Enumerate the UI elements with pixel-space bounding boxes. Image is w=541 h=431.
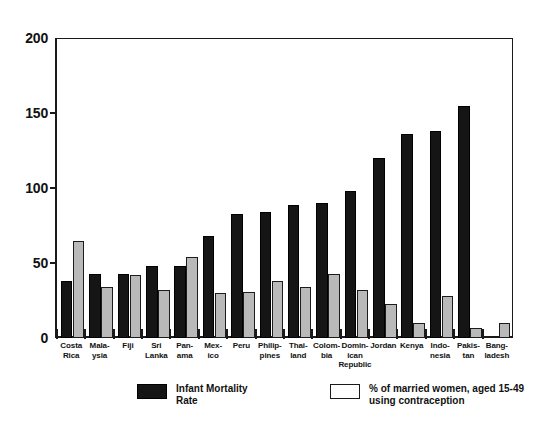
bar-chart: 050100150200 CostaRicaMala-ysiaFijiSriLa… [0, 0, 541, 431]
x-tick-mark [283, 329, 285, 339]
x-tick-mark [311, 329, 313, 339]
legend-swatch-contra [330, 384, 360, 399]
bar-group [256, 38, 284, 338]
bar-infant-mortality-rate [430, 131, 442, 338]
bars-layer [57, 38, 511, 338]
x-tick-mark [482, 329, 484, 339]
bar-group [227, 38, 255, 338]
bar-contraception-percent [73, 241, 85, 339]
bar-group [142, 38, 170, 338]
y-tick-label: 0 [0, 331, 48, 345]
bar-group [341, 38, 369, 338]
bar-contraception-percent [357, 290, 369, 338]
legend-label-line: % of married women, aged 15-49 [369, 383, 524, 395]
x-tick-mark [226, 329, 228, 339]
x-tick-mark [198, 329, 200, 339]
bar-group [312, 38, 340, 338]
bar-contraception-percent [442, 296, 454, 338]
legend-label: Infant MortalityRate [176, 383, 248, 407]
bar-group [114, 38, 142, 338]
bar-infant-mortality-rate [89, 274, 101, 339]
bar-infant-mortality-rate [118, 274, 130, 339]
bar-contraception-percent [158, 290, 170, 338]
bar-contraception-percent [101, 287, 113, 338]
y-tick-label: 150 [0, 106, 48, 120]
bar-group [454, 38, 482, 338]
x-tick-mark [396, 329, 398, 339]
bar-group [85, 38, 113, 338]
legend-label: % of married women, aged 15-49using cont… [369, 383, 524, 407]
bar-contraception-percent [215, 293, 227, 338]
bar-contraception-percent [272, 281, 284, 338]
legend-label-line: using contraception [369, 395, 524, 407]
bar-contraception-percent [470, 328, 482, 339]
bar-infant-mortality-rate [401, 134, 413, 338]
x-axis-label-line: ysia [82, 351, 116, 361]
bar-infant-mortality-rate [61, 281, 73, 338]
bar-group [171, 38, 199, 338]
bar-infant-mortality-rate [373, 158, 385, 338]
x-tick-mark [368, 329, 370, 339]
x-tick-mark [425, 329, 427, 339]
bar-contraception-percent [413, 323, 425, 338]
bar-contraception-percent [243, 292, 255, 339]
x-tick-mark [255, 329, 257, 339]
legend-swatch-imr [137, 384, 167, 399]
bar-infant-mortality-rate [146, 266, 158, 338]
x-axis-label-line: Bang- [480, 341, 514, 351]
bar-infant-mortality-rate [458, 106, 470, 339]
bar-infant-mortality-rate [174, 266, 186, 338]
bar-contraception-percent [130, 275, 142, 338]
x-tick-mark [169, 329, 171, 339]
bar-group [199, 38, 227, 338]
x-axis-label: Bang-ladesh [480, 341, 514, 360]
y-tick-label: 200 [0, 31, 48, 45]
y-tick-label: 50 [0, 256, 48, 270]
y-axis: 050100150200 [0, 0, 48, 431]
x-tick-mark [113, 329, 115, 339]
x-tick-mark [56, 329, 58, 339]
bar-group [284, 38, 312, 338]
x-tick-mark [340, 329, 342, 339]
legend-entry: Infant MortalityRate [137, 383, 248, 407]
legend-label-line: Infant Mortality [176, 383, 248, 395]
legend-label-line: Rate [176, 395, 248, 407]
x-axis-label-line: Republic [338, 360, 372, 370]
bar-group [483, 38, 511, 338]
legend-entry: % of married women, aged 15-49using cont… [330, 383, 524, 407]
x-axis-label-line: ladesh [480, 351, 514, 361]
bar-infant-mortality-rate [231, 214, 243, 339]
x-axis-label-line: ico [196, 351, 230, 361]
bar-contraception-percent [499, 323, 511, 338]
y-tick-label: 100 [0, 181, 48, 195]
bar-group [426, 38, 454, 338]
x-tick-mark [453, 329, 455, 339]
bar-contraception-percent [328, 274, 340, 339]
bar-infant-mortality-rate [260, 212, 272, 338]
bar-group [398, 38, 426, 338]
bar-infant-mortality-rate [345, 191, 357, 338]
bar-infant-mortality-rate [288, 205, 300, 339]
chart-legend: Infant MortalityRate% of married women, … [0, 383, 541, 423]
x-tick-mark [84, 329, 86, 339]
bar-group [369, 38, 397, 338]
bar-contraception-percent [300, 287, 312, 338]
bar-infant-mortality-rate [316, 203, 328, 338]
bar-infant-mortality-rate [203, 236, 215, 338]
bar-contraception-percent [385, 304, 397, 339]
bar-group [57, 38, 85, 338]
x-axis-label-line: ican [338, 351, 372, 361]
x-axis-labels: CostaRicaMala-ysiaFijiSriLankaPan-amaMex… [57, 341, 511, 381]
x-tick-mark [141, 329, 143, 339]
bar-contraception-percent [186, 257, 198, 338]
